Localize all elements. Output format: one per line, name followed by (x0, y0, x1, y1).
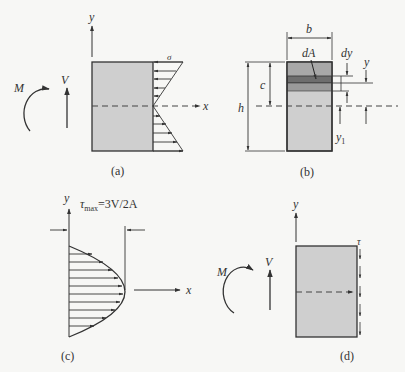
caption-c: (c) (61, 349, 74, 363)
y1-label: y1 (335, 130, 345, 146)
upper-area-band (288, 63, 332, 77)
panel-b: b dA h c dy y y1 (b) (153, 22, 398, 179)
dA-label: dA (302, 46, 316, 60)
panel-a: y x σ M V (a) (13, 10, 209, 178)
tau-label-d: τ (357, 236, 361, 247)
shear-label-a: V (61, 73, 70, 87)
height-label: h (238, 101, 244, 115)
moment-label-a: M (13, 81, 25, 95)
tau-max-formula: τmax=3V/2A (80, 197, 138, 213)
area-element-dA (288, 76, 332, 83)
shear-label-d: V (265, 255, 274, 269)
width-label: b (306, 22, 312, 36)
stress-label: σ (167, 52, 172, 62)
y-axis-label-d: y (292, 197, 299, 211)
caption-b: (b) (300, 165, 314, 179)
moment-arrow-a (24, 89, 49, 131)
lower-area-band (288, 83, 332, 91)
caption-a: (a) (111, 164, 124, 178)
y-distance-label: y (363, 55, 370, 69)
panel-c: y τmax=3V/2A x (c) (50, 191, 192, 363)
x-axis-label-c: x (185, 283, 192, 297)
dy-label: dy (341, 46, 353, 60)
panel-d: y τ M V (d) (216, 197, 361, 363)
y-axis-label-c: y (63, 191, 70, 205)
x-axis-label-a: x (202, 99, 209, 113)
c-label: c (260, 78, 266, 92)
moment-arrow-d (223, 267, 253, 313)
shear-stress-parabola (69, 246, 125, 337)
caption-d: (d) (340, 349, 354, 363)
moment-label-d: M (216, 265, 228, 279)
beam-stress-figure: y x σ M V (a) (0, 0, 405, 372)
shear-stress-arrows (69, 254, 123, 326)
y-axis-label-a: y (88, 10, 95, 24)
